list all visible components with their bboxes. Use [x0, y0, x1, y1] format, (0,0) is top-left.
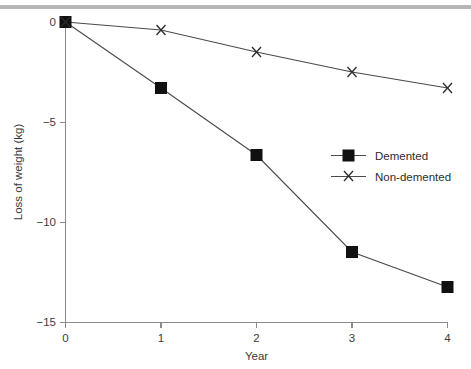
x-tick-label-3: 3 [349, 332, 355, 344]
y-tick-label-minus10: −10 [36, 216, 56, 228]
legend-label-non-demented: Non-demented [375, 171, 451, 183]
line-chart-canvas: 0 −5 −10 −15 0 1 2 3 4 Year Loss of weig… [0, 0, 471, 369]
y-tick-label-minus5: −5 [43, 116, 56, 128]
y-axis-title: Loss of weight (kg) [12, 124, 24, 221]
data-point-marker [251, 150, 262, 161]
data-point-marker [156, 83, 167, 94]
data-point-marker [347, 247, 358, 258]
series-markers-non-demented [61, 17, 452, 93]
x-tick-label-4: 4 [444, 332, 451, 344]
x-tick-label-1: 1 [158, 332, 164, 344]
chart-legend: Demented Non-demented [331, 150, 451, 183]
x-tick-label-0: 0 [62, 332, 68, 344]
legend-label-demented: Demented [375, 150, 428, 162]
chart-figure: 0 −5 −10 −15 0 1 2 3 4 Year Loss of weig… [0, 0, 471, 369]
x-axis-ticks [66, 323, 448, 329]
data-point-marker [252, 47, 261, 57]
series-line-non-demented [66, 22, 448, 88]
y-axis-ticks [60, 23, 66, 323]
data-point-marker [442, 282, 453, 293]
x-axis-title: Year [245, 350, 268, 362]
y-tick-label-minus15: −15 [36, 316, 56, 328]
y-tick-label-0: 0 [50, 16, 56, 28]
x-tick-label-2: 2 [253, 332, 259, 344]
legend-marker-filled-square-icon [343, 150, 354, 161]
